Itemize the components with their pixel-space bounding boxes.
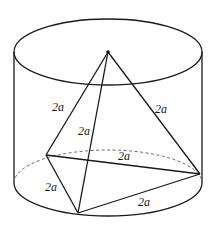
edge-label-left-right: 2a [118,150,130,162]
edge-label-apex-front: 2a [78,125,90,137]
edge-label-left-front: 2a [45,181,57,193]
cylinder-tetrahedron-diagram: 2a 2a 2a 2a 2a 2a [0,0,208,226]
edge-label-apex-right: 2a [155,103,167,115]
apex-point [106,50,110,54]
edge-label-apex-left: 2a [52,101,64,113]
cylinder-bottom-front-arc [14,183,202,216]
diagram-canvas [0,0,208,226]
cylinder-bottom-back-arc [14,150,202,183]
edge-label-front-right: 2a [138,196,150,208]
